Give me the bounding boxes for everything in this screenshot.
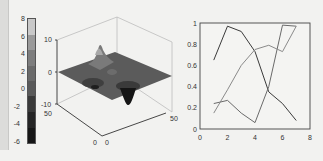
y-tick-label: 0.6 [187, 62, 197, 69]
y-tick-label: 0.8 [187, 41, 197, 48]
x-tick-label: 4 [253, 134, 257, 141]
y-tick-label: 0.2 [187, 104, 197, 111]
x-tick-label: 2 [226, 134, 230, 141]
line-chart-y-ticks: 00.20.40.60.81 [187, 20, 197, 133]
y-tick-label: 1 [193, 20, 197, 27]
x-tick-label: 8 [308, 134, 312, 141]
y-tick-label: 0.4 [187, 83, 197, 90]
line-chart-axes-box [200, 23, 310, 129]
x-tick-label: 6 [281, 134, 285, 141]
line-chart-x-ticks: 02468 [198, 134, 312, 141]
line-chart: 00.20.40.60.81 02468 [0, 0, 323, 161]
x-tick-label: 0 [198, 134, 202, 141]
y-tick-label: 0 [193, 126, 197, 133]
